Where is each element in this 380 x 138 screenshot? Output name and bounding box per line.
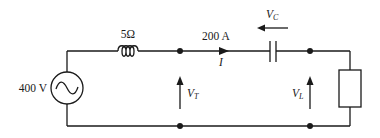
ac-source-icon: [51, 72, 83, 104]
load-resistor-icon: [339, 70, 361, 107]
capacitor-icon: [270, 41, 276, 62]
load-voltage-label: VL: [292, 87, 304, 101]
terminal-voltage-label: VT: [187, 87, 199, 101]
circuit-svg: 400 V 5Ω 200 A I VC: [0, 0, 380, 138]
current-arrow-icon: [219, 47, 229, 55]
node-terminal-bottom: [177, 123, 183, 129]
current-symbol-label: I: [218, 56, 224, 68]
circuit-diagram: 400 V 5Ω 200 A I VC: [0, 0, 380, 138]
node-terminal-top: [177, 48, 183, 54]
current-value-label: 200 A: [202, 30, 230, 42]
load-voltage-arrowhead-icon: [307, 76, 314, 85]
source-voltage-label: 400 V: [19, 82, 48, 94]
node-load-top: [307, 48, 313, 54]
capacitor-voltage-arrowhead-icon: [257, 25, 265, 32]
node-load-bottom: [307, 123, 313, 129]
inductor-icon: [118, 46, 138, 57]
terminal-voltage-arrowhead-icon: [177, 76, 184, 85]
inductor-impedance-label: 5Ω: [121, 28, 135, 40]
capacitor-voltage-label: VC: [266, 8, 279, 22]
